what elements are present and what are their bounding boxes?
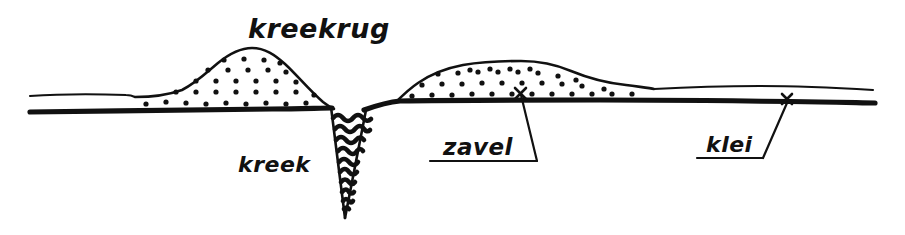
surface-line-left-flat bbox=[30, 94, 135, 97]
klei-leader-line bbox=[763, 103, 787, 158]
sand-dot bbox=[515, 69, 520, 74]
sand-dot bbox=[183, 100, 188, 105]
sand-dot bbox=[499, 80, 504, 85]
sand-dot bbox=[469, 91, 474, 96]
sand-dot bbox=[277, 60, 282, 65]
sand-dot bbox=[539, 80, 544, 85]
sand-dot bbox=[449, 92, 454, 97]
sand-dot bbox=[519, 80, 524, 85]
sand-dot bbox=[495, 69, 500, 74]
sand-dot bbox=[221, 57, 226, 62]
sand-dot bbox=[549, 91, 554, 96]
zavel-leader-line bbox=[521, 95, 537, 161]
sand-dot bbox=[529, 91, 534, 96]
sand-dot bbox=[203, 101, 208, 106]
sand-dot bbox=[589, 91, 594, 96]
sand-dot bbox=[569, 91, 574, 96]
sand-dot bbox=[487, 66, 492, 71]
sand-dot bbox=[263, 100, 268, 105]
sand-dot bbox=[253, 89, 258, 94]
sand-dot bbox=[435, 71, 440, 76]
sand-dot bbox=[193, 78, 198, 83]
sand-dot bbox=[233, 89, 238, 94]
sand-dot bbox=[419, 82, 424, 87]
sand-dot bbox=[245, 67, 250, 72]
sand-dot bbox=[163, 99, 168, 104]
sand-dot bbox=[283, 101, 288, 106]
sand-dot bbox=[311, 92, 316, 97]
kreek-wave-row bbox=[338, 148, 363, 154]
sand-dot bbox=[273, 78, 278, 83]
klei-label: klei bbox=[706, 132, 753, 157]
sand-dot bbox=[467, 67, 472, 72]
sand-dot bbox=[223, 100, 228, 105]
kreek-wave-row bbox=[335, 126, 370, 132]
sand-dot bbox=[459, 81, 464, 86]
kreek-wave-row bbox=[344, 208, 349, 210]
sand-dot bbox=[261, 57, 266, 62]
clay-layer-line-right bbox=[364, 100, 875, 110]
sand-dot bbox=[241, 56, 246, 61]
sand-dot bbox=[579, 83, 584, 88]
kreekrug-label: kreekrug bbox=[248, 13, 390, 44]
sand-dot bbox=[265, 67, 270, 72]
sand-dot bbox=[489, 91, 494, 96]
sand-dot bbox=[193, 89, 198, 94]
sand-dot bbox=[293, 89, 298, 94]
sand-dot bbox=[555, 73, 560, 78]
sand-dot bbox=[303, 100, 308, 105]
geological-cross-section-figure: zavel klei kreekrug kreek bbox=[0, 0, 905, 235]
kreek-wave-fill bbox=[333, 115, 371, 209]
sand-dot bbox=[243, 101, 248, 106]
clay-layer-line-left bbox=[30, 108, 332, 112]
sand-dot bbox=[455, 70, 460, 75]
sand-dot bbox=[273, 89, 278, 94]
sand-dot bbox=[173, 89, 178, 94]
sand-dot bbox=[573, 77, 578, 82]
kreek-label: kreek bbox=[238, 152, 311, 177]
sand-dot bbox=[205, 67, 210, 72]
sand-dot bbox=[475, 69, 480, 74]
sand-dot bbox=[535, 70, 540, 75]
kreek-wave-row bbox=[342, 190, 354, 194]
sand-dot bbox=[225, 67, 230, 72]
kreek-wave-row bbox=[343, 199, 353, 203]
sand-dot bbox=[609, 91, 614, 96]
sand-dot bbox=[527, 66, 532, 71]
sand-dot bbox=[233, 78, 238, 83]
sand-dot bbox=[143, 101, 148, 106]
sand-dot bbox=[213, 78, 218, 83]
sand-dot bbox=[283, 69, 288, 74]
cross-section-drawing: zavel klei kreekrug kreek bbox=[0, 0, 905, 235]
sand-dot bbox=[213, 89, 218, 94]
sand-dot bbox=[601, 86, 606, 91]
kreek-channel bbox=[331, 107, 371, 218]
sand-dot bbox=[629, 91, 634, 96]
surface-line-right-flat bbox=[654, 86, 873, 90]
sand-dot bbox=[409, 93, 414, 98]
sand-dot bbox=[559, 81, 564, 86]
sand-dot bbox=[507, 66, 512, 71]
left-ridge-fill bbox=[133, 49, 332, 110]
zavel-label: zavel bbox=[442, 134, 513, 160]
sand-dot bbox=[479, 80, 484, 85]
sand-dot bbox=[439, 81, 444, 86]
sand-dot bbox=[509, 91, 514, 96]
sand-dot bbox=[293, 79, 298, 84]
sand-dot bbox=[429, 92, 434, 97]
sand-dot bbox=[253, 78, 258, 83]
